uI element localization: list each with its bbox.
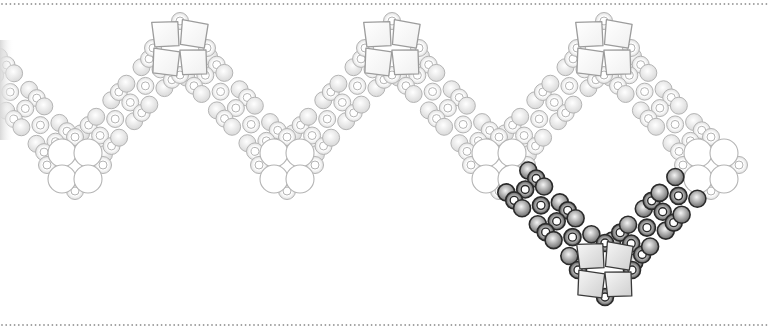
round-bead <box>436 118 453 135</box>
round-bead <box>330 75 347 92</box>
ring-bead <box>243 116 260 133</box>
round-bead <box>300 108 317 125</box>
round-bead <box>620 216 637 233</box>
beadwork-canvas <box>0 0 768 334</box>
round-bead <box>567 210 584 227</box>
round-bead <box>642 238 659 255</box>
cube-cluster-active <box>570 235 641 306</box>
large-round-bead <box>472 139 500 167</box>
cube-cluster-2 <box>357 13 428 84</box>
round-bead <box>246 97 263 114</box>
round-bead <box>216 64 233 81</box>
ring-bead <box>531 110 548 127</box>
round-bead <box>545 232 562 249</box>
round-bead <box>141 96 158 113</box>
ring-bead <box>561 77 578 94</box>
round-bead <box>648 118 665 135</box>
round-bead <box>13 119 30 136</box>
large-round-bead <box>74 165 102 193</box>
ring-bead <box>107 110 124 127</box>
round-bead <box>224 118 241 135</box>
ring-bead <box>636 83 653 100</box>
cube-bead <box>604 50 631 75</box>
ring-bead <box>564 229 581 246</box>
round-bead <box>323 129 340 146</box>
cube-bead <box>152 22 179 47</box>
ring-bead <box>32 117 49 134</box>
cube-bead <box>365 48 392 76</box>
round-bead <box>673 206 690 223</box>
round-bead <box>111 129 128 146</box>
cube-bead <box>578 270 605 298</box>
large-round-bead <box>48 139 76 167</box>
left-edge-shadow <box>0 40 14 140</box>
round-bead <box>651 184 668 201</box>
large-round-bead <box>684 139 712 167</box>
ring-bead <box>424 83 441 100</box>
ring-bead <box>137 77 154 94</box>
cube-bead <box>605 20 633 49</box>
round-bead <box>512 108 529 125</box>
cube-bead <box>576 22 603 47</box>
round-bead <box>458 97 475 114</box>
round-bead <box>88 108 105 125</box>
ring-bead <box>667 116 684 133</box>
round-bead <box>535 129 552 146</box>
large-round-bead <box>260 165 288 193</box>
cube-bead <box>606 242 634 271</box>
cube-bead <box>605 272 632 297</box>
round-bead <box>353 96 370 113</box>
cube-cluster-3 <box>569 13 640 84</box>
ring-bead <box>532 197 549 214</box>
round-bead <box>193 85 210 102</box>
large-round-bead <box>74 139 102 167</box>
ring-bead <box>455 116 472 133</box>
large-round-bead <box>260 139 288 167</box>
round-bead <box>667 168 684 185</box>
ring-bead <box>638 219 655 236</box>
cube-bead <box>577 48 604 76</box>
cube-bead <box>181 20 209 49</box>
round-bead <box>536 178 553 195</box>
round-bead <box>640 64 657 81</box>
large-round-bead <box>710 165 738 193</box>
completed-beadwork <box>0 13 748 200</box>
cube-cluster-1 <box>145 13 216 84</box>
cube-bead <box>364 22 391 47</box>
round-bead <box>670 97 687 114</box>
current-step-beadwork <box>498 162 706 305</box>
large-round-bead <box>286 165 314 193</box>
cube-bead <box>393 20 421 49</box>
ring-bead <box>670 187 687 204</box>
round-bead <box>617 85 634 102</box>
cube-bead <box>180 50 207 75</box>
round-bead <box>565 96 582 113</box>
large-round-bead <box>286 139 314 167</box>
round-bead <box>36 98 53 115</box>
cube-bead <box>577 244 604 269</box>
ring-bead <box>212 83 229 100</box>
large-round-bead <box>684 165 712 193</box>
round-bead <box>689 190 706 207</box>
ring-bead <box>319 110 336 127</box>
round-bead <box>118 75 135 92</box>
round-bead <box>428 64 445 81</box>
large-round-bead <box>472 165 500 193</box>
large-round-bead <box>498 139 526 167</box>
large-round-bead <box>48 165 76 193</box>
ring-bead <box>349 77 366 94</box>
large-round-bead <box>710 139 738 167</box>
round-bead <box>405 85 422 102</box>
cube-bead <box>153 48 180 76</box>
round-bead <box>542 75 559 92</box>
cube-bead <box>392 50 419 75</box>
round-bead <box>514 200 531 217</box>
